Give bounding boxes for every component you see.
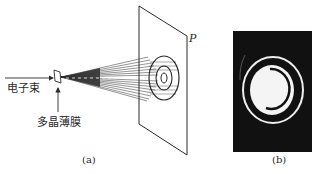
cone-shading [61, 68, 100, 87]
electron-beam-label: 电子束 [7, 83, 40, 94]
ring-pattern-on-screen [149, 56, 179, 100]
panel-b-photo [233, 31, 312, 152]
film-label: 多晶薄膜 [37, 117, 81, 128]
caption-b: (b) [272, 155, 286, 165]
ring-hatching [149, 62, 179, 94]
screen-label: P [189, 33, 196, 44]
polycrystalline-film [54, 70, 61, 83]
electron-diffraction-figure: 电子束 多晶薄膜 P (a) (b) [0, 0, 324, 174]
panel-a-diagram [5, 6, 187, 155]
inner-bright-disc [250, 65, 294, 115]
caption-a: (a) [82, 155, 96, 165]
